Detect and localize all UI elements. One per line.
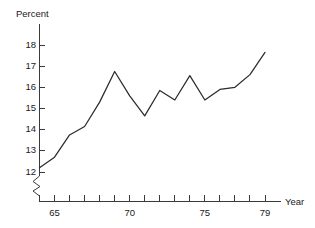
y-tick-label: 13 xyxy=(25,144,36,155)
y-axis-break-icon xyxy=(33,176,40,196)
line-chart-plot: Percent Year 18171615141312 65707579 xyxy=(0,0,315,228)
x-tick-label: 79 xyxy=(260,207,271,218)
x-tick-label: 65 xyxy=(49,207,60,218)
y-tick-label: 17 xyxy=(25,60,36,71)
x-axis-title: Year xyxy=(285,196,304,207)
chart-container: Percent Year 18171615141312 65707579 xyxy=(0,0,315,228)
y-tick-label: 15 xyxy=(25,102,36,113)
y-axis-ticks: 18171615141312 xyxy=(25,39,45,177)
x-axis-ticks: 65707579 xyxy=(40,195,271,218)
y-tick-label: 18 xyxy=(25,39,36,50)
x-tick-label: 75 xyxy=(200,207,211,218)
data-series-line xyxy=(40,52,266,167)
y-tick-label: 12 xyxy=(25,166,36,177)
x-tick-label: 70 xyxy=(124,207,135,218)
y-tick-label: 16 xyxy=(25,81,36,92)
y-tick-label: 14 xyxy=(25,123,36,134)
y-axis-title: Percent xyxy=(16,8,49,19)
